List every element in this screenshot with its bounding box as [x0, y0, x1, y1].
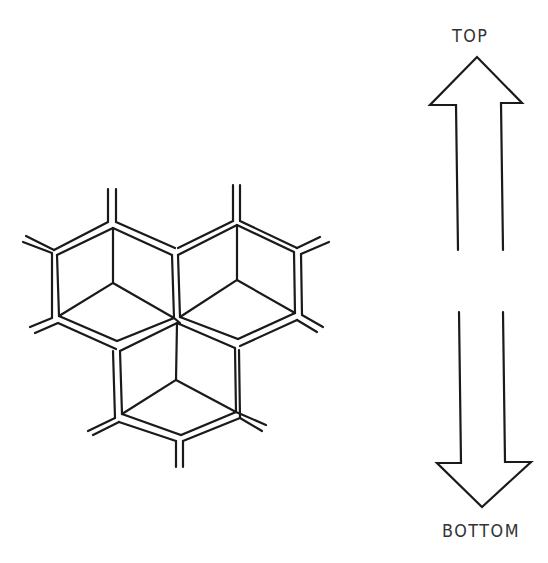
bottom-arrow-icon	[437, 312, 531, 507]
bottom-cell-inner-wall	[120, 323, 236, 435]
upper-left-cell	[23, 189, 175, 349]
top-arrow-icon	[430, 57, 522, 250]
diagram-canvas	[0, 0, 548, 563]
upper-right-cell	[178, 185, 329, 346]
bottom-cell-outer-wall	[113, 351, 115, 418]
upper-left-cell-outer-wall	[54, 189, 108, 250]
bottom-label: BOTTOM	[442, 522, 520, 542]
upper-right-cell-outer-wall	[178, 185, 233, 248]
top-label: TOP	[452, 27, 489, 47]
